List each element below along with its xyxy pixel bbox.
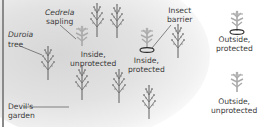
inside-protected-label: Inside, protected [128, 56, 165, 74]
duroia-tree-icon [90, 3, 104, 37]
duroia-tree-icon [142, 85, 156, 119]
insect-barrier-label: Insect barrier [167, 6, 193, 24]
cedrela-sapling-icon [141, 28, 153, 48]
duroia-label-2: tree [8, 40, 23, 49]
barrier-leader-line [152, 25, 171, 48]
duroia-label: Duroia [8, 30, 33, 39]
duroia-tree-icon [41, 46, 55, 80]
cedrela-label-2: sapling [46, 17, 73, 26]
inside-unprotected-label: Inside, unprotected [70, 50, 116, 68]
duroia-tree-icon [171, 24, 185, 58]
duroia-leader-line [20, 46, 42, 55]
duroia-tree-icon [75, 66, 89, 100]
insect-barrier-ring-icon [140, 48, 154, 53]
outside-unprotected-label: Outside, unprotected [211, 97, 257, 115]
duroia-tree-icon [110, 4, 124, 38]
outside-protected-label: Outside, protected [216, 35, 253, 53]
cedrela-label: Cedrela [45, 8, 74, 17]
cedrela-sapling-icon [231, 72, 243, 92]
cedrela-sapling-icon [76, 26, 88, 46]
cedrela-leader-line [60, 25, 76, 39]
duroia-tree-icon [112, 69, 126, 103]
devils-garden-label: Devil's garden [8, 102, 35, 120]
cedrela-sapling-icon [231, 11, 243, 31]
diagram-canvas: Cedrela sapling Duroia tree Insect barri… [0, 0, 260, 127]
